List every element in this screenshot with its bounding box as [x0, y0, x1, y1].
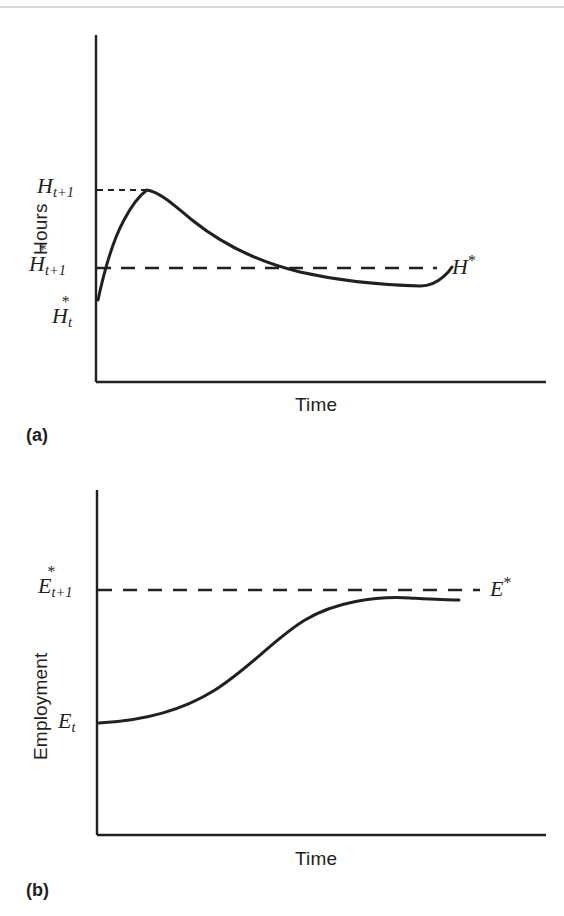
e-subscript: t	[71, 719, 75, 735]
figure-page: Hours Ht+1 H*t+1 H*t H* Time (a)	[0, 0, 564, 916]
panel-a-tick-label-h-star-t-plus-1: H*t+1	[29, 253, 66, 278]
e-symbol: E	[58, 708, 71, 733]
panel-a-hours-curve	[98, 190, 452, 300]
panel-a-tick-label-h-t-plus-1: Ht+1	[37, 175, 74, 200]
panel-b-label: (b)	[26, 880, 49, 901]
h-star-stack: H*	[52, 305, 68, 327]
h-symbol: H	[37, 173, 53, 198]
e-subscript: t+1	[51, 584, 72, 600]
panel-a-tick-label-h-star-t: H*t	[52, 305, 72, 330]
panel-b-tick-label-e-star-t-plus-1: E*t+1	[38, 575, 73, 600]
panel-a-label: (a)	[26, 425, 48, 446]
panel-a-plot	[0, 0, 564, 460]
h-symbol: H	[452, 254, 468, 279]
h-subscript: t+1	[53, 184, 74, 200]
star-superscript: *	[48, 564, 56, 580]
panel-b-tick-label-e-t: Et	[58, 710, 76, 735]
panel-b-plot	[0, 460, 564, 916]
star-superscript: *	[62, 294, 70, 310]
panel-b-y-axis-label: Employment	[30, 652, 52, 760]
panel-a-right-label-h-star: H*	[452, 253, 476, 278]
star-superscript: *	[503, 574, 511, 591]
panel-b-x-axis-label: Time	[295, 848, 337, 870]
panel-b: Employment E*t+1 Et E* Time (b)	[0, 460, 564, 916]
panel-a: Hours Ht+1 H*t+1 H*t H* Time (a)	[0, 0, 564, 460]
e-star-stack: E*	[38, 575, 51, 597]
h-subscript: t	[68, 314, 72, 330]
star-superscript: *	[39, 242, 47, 258]
star-superscript: *	[468, 252, 476, 269]
panel-b-right-label-e-star: E*	[490, 575, 511, 600]
e-symbol: E	[490, 576, 503, 601]
h-star-stack: H*	[29, 253, 45, 275]
panel-b-employment-curve	[99, 598, 459, 723]
h-subscript: t+1	[45, 262, 66, 278]
panel-a-x-axis-label: Time	[295, 394, 337, 416]
